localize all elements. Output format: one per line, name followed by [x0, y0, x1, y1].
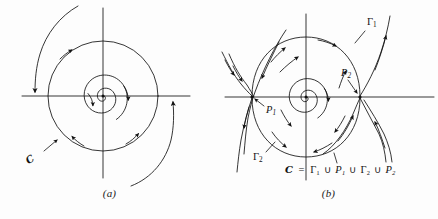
traj-left-outer-in-2	[229, 54, 254, 97]
gamma1-leader	[355, 31, 365, 43]
p-2-label: P2	[341, 68, 351, 80]
gamma1-arrow-inner	[280, 57, 298, 72]
panel-a-caption: (a)	[0, 187, 219, 199]
traj-right-down-2	[364, 100, 392, 162]
gamma-2-label: Γ2	[253, 152, 263, 164]
inner-spiral-b	[289, 79, 327, 118]
panel-b: Γ1 Γ2 P1 P2 C = Γ₁ ∪ P₁ ∪ Γ₂ ∪ P₂ (b)	[219, 0, 438, 219]
gamma-1-label: Γ1	[367, 17, 377, 29]
gamma2-arrow-se	[335, 116, 345, 132]
set-union-equation: C = Γ₁ ∪ P₁ ∪ Γ₂ ∪ P₂	[285, 165, 396, 176]
gamma1-arrow-nw	[271, 48, 285, 62]
panel-a: C (a)	[0, 0, 219, 219]
p2-leader	[348, 80, 357, 93]
traj-through-p1	[244, 30, 286, 154]
cycle-arrow-nw-a	[60, 50, 72, 59]
inner-spiral-arrow2-a	[88, 94, 93, 106]
gamma2-arrow-sw	[272, 132, 286, 147]
outer-spiral-lower-a	[131, 102, 174, 186]
gamma2-arrow-s	[314, 143, 332, 152]
panel-b-caption: (b)	[219, 187, 438, 199]
gamma2-arrow-inner	[281, 110, 291, 126]
figure-canvas: C (a)	[0, 0, 438, 219]
p-1-label: P1	[266, 105, 276, 117]
equation-leader	[334, 153, 337, 163]
p1-leader	[255, 99, 264, 106]
outer-spiral-upper-a	[35, 6, 78, 92]
traj-p1-arrow	[262, 42, 279, 78]
c-label-leader-a	[44, 140, 57, 151]
